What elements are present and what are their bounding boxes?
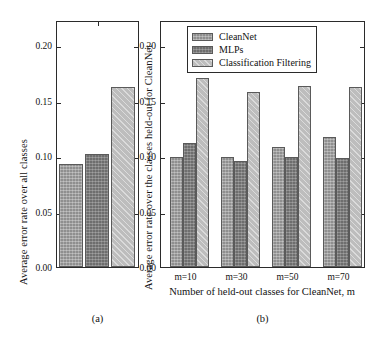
panel-b-bar-mlps-m70 <box>336 158 349 267</box>
legend-entry-mlps: MLPs <box>192 43 311 56</box>
panel-b-ytick-0: 0.00 <box>128 263 156 273</box>
legend-label-cleannet: CleanNet <box>219 31 257 43</box>
panel-b-ytick-3: 0.15 <box>128 97 156 107</box>
panel-a-ytick-3: 0.15 <box>24 97 52 107</box>
panel-b-bar-cleannet-m50 <box>272 147 285 267</box>
panel-b-bar-cleannet-m30 <box>221 157 234 267</box>
panel-a-bar-cleannet <box>59 164 83 267</box>
panel-b-subcaption: (b) <box>160 313 365 324</box>
legend-entry-cleannet: CleanNet <box>192 30 311 43</box>
panel-a-ytick-0: 0.00 <box>24 263 52 273</box>
legend-entry-classification-filtering: Classification Filtering <box>192 56 311 69</box>
panel-b-bar-classification-filtering-m30 <box>247 92 260 267</box>
panel-a-bar-mlps <box>85 154 109 267</box>
legend-swatch-classification-filtering <box>192 59 213 67</box>
panel-b-xtick-m30: m=30 <box>211 272 262 282</box>
panel-a-plot-area <box>56 21 139 268</box>
panel-b-tickmark-0 <box>161 214 165 215</box>
legend-label-classification-filtering: Classification Filtering <box>219 57 311 69</box>
panel-b-bar-cleannet-m10 <box>170 157 183 267</box>
panel-b-bar-cleannet-m70 <box>323 137 336 267</box>
panel-b-bar-classification-filtering-m10 <box>196 78 209 267</box>
panel-b-bar-mlps-m30 <box>234 161 247 267</box>
panel-b-tickmark-3 <box>161 47 165 48</box>
panel-b-tickmark-2 <box>161 103 165 104</box>
figure-root: Average error rate over all classes 0.00… <box>0 0 373 344</box>
legend-swatch-mlps <box>192 46 213 54</box>
panel-b-bar-mlps-m10 <box>183 143 196 267</box>
panel-b-tickmark-r3 <box>360 47 364 48</box>
panel-b-xtick-m50: m=50 <box>262 272 313 282</box>
panel-b-bar-mlps-m50 <box>285 157 298 267</box>
legend-swatch-cleannet <box>192 33 213 41</box>
panel-b-bar-classification-filtering-m70 <box>349 87 362 267</box>
panel-b-bar-classification-filtering-m50 <box>298 86 311 267</box>
panel-a-ytick-1: 0.05 <box>24 208 52 218</box>
panel-a-tickmark-top <box>98 22 99 26</box>
panel-b-plot-area: CleanNet MLPs Classification Filtering <box>160 21 365 268</box>
panel-b-xtick-m10: m=10 <box>160 272 211 282</box>
panel-a-subcaption: (a) <box>56 313 139 324</box>
panel-a-tickmark-1 <box>57 158 61 159</box>
legend-label-mlps: MLPs <box>219 44 243 56</box>
panel-b-ytick-1: 0.05 <box>128 208 156 218</box>
panel-b-ytick-2: 0.10 <box>128 152 156 162</box>
panel-a-ytick-4: 0.20 <box>24 41 52 51</box>
legend: CleanNet MLPs Classification Filtering <box>187 26 317 73</box>
panel-a-ytick-2: 0.10 <box>24 152 52 162</box>
panel-b-x-axis-label: Number of held-out classes for CleanNet,… <box>158 286 366 297</box>
panel-b-ytick-4: 0.20 <box>128 41 156 51</box>
panel-b-xtick-m70: m=70 <box>313 272 364 282</box>
panel-a-tickmark-2 <box>57 103 61 104</box>
panel-a-bar-classification-filtering <box>111 87 135 267</box>
panel-b-tickmark-1 <box>161 158 165 159</box>
panel-a-tickmark-3 <box>57 47 61 48</box>
